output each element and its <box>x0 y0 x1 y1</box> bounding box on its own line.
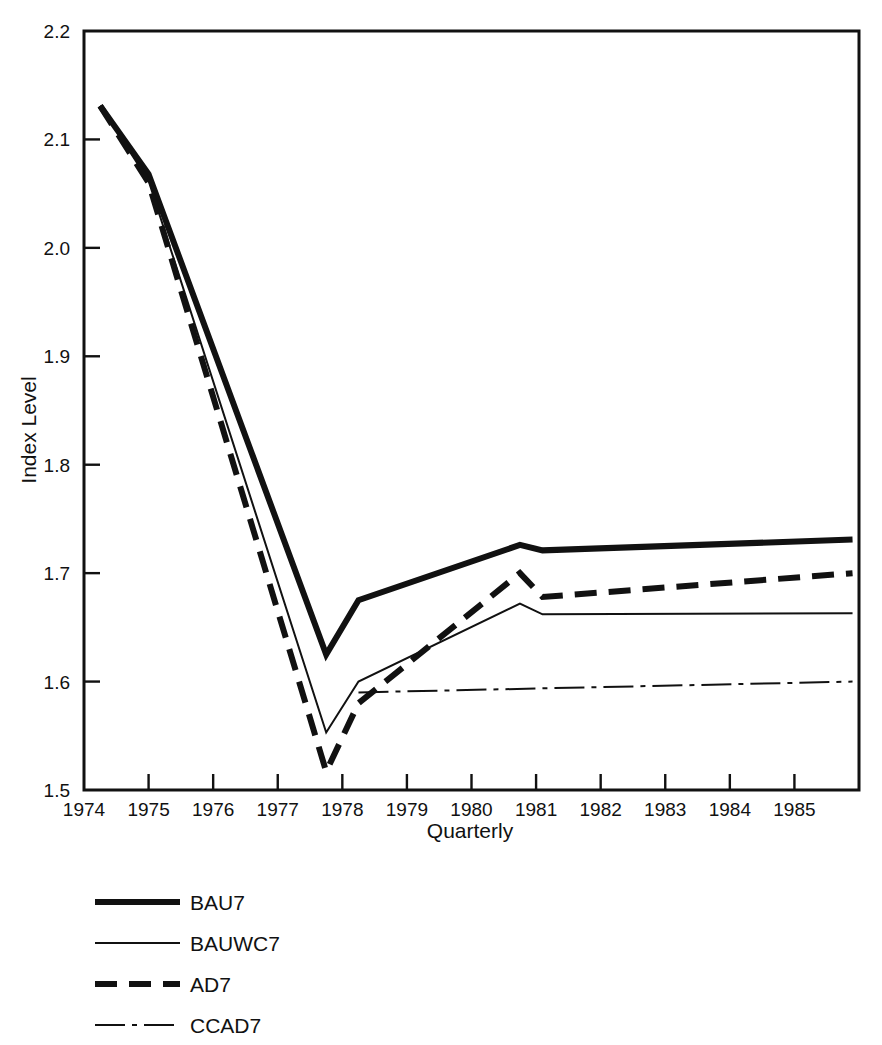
chart-legend: BAU7BAUWC7AD7CCAD7 <box>95 891 280 1037</box>
chart-canvas: 1.51.61.71.81.92.02.12.2 197419751976197… <box>0 0 882 1045</box>
y-tick-label: 2.1 <box>44 129 70 150</box>
x-tick-label: 1979 <box>386 799 428 820</box>
x-axis-ticks <box>149 774 795 790</box>
x-tick-label: 1985 <box>773 799 815 820</box>
legend-label-ad7: AD7 <box>190 973 231 996</box>
x-axis-tick-labels: 1974197519761977197819791980198119821983… <box>63 799 816 820</box>
legend-label-bau7: BAU7 <box>190 891 245 914</box>
y-axis-tick-labels: 1.51.61.71.81.92.02.12.2 <box>44 21 70 801</box>
legend-label-ccad7: CCAD7 <box>190 1014 261 1037</box>
y-tick-label: 1.6 <box>44 672 70 693</box>
y-tick-label: 1.5 <box>44 780 70 801</box>
y-tick-label: 2.2 <box>44 21 70 42</box>
series-line-bauwc7 <box>100 106 852 733</box>
y-tick-label: 2.0 <box>44 238 70 259</box>
x-tick-label: 1976 <box>192 799 234 820</box>
x-tick-label: 1982 <box>580 799 622 820</box>
x-tick-label: 1978 <box>321 799 363 820</box>
y-axis-title: Index Level <box>17 376 40 483</box>
chart-figure: 1.51.61.71.81.92.02.12.2 197419751976197… <box>0 0 882 1045</box>
x-tick-label: 1981 <box>515 799 557 820</box>
y-tick-label: 1.8 <box>44 455 70 476</box>
series-line-ad7 <box>100 106 852 772</box>
plot-frame <box>84 31 859 790</box>
legend-label-bauwc7: BAUWC7 <box>190 932 280 955</box>
y-tick-label: 1.7 <box>44 563 70 584</box>
x-tick-label: 1977 <box>257 799 299 820</box>
y-tick-label: 1.9 <box>44 346 70 367</box>
x-tick-label: 1974 <box>63 799 106 820</box>
x-tick-label: 1983 <box>644 799 686 820</box>
x-axis-title: Quarterly <box>427 819 514 842</box>
x-tick-label: 1980 <box>450 799 492 820</box>
series-line-ccad7 <box>358 682 852 693</box>
y-axis-ticks <box>84 139 100 681</box>
series-lines <box>100 106 852 772</box>
x-tick-label: 1975 <box>127 799 169 820</box>
x-tick-label: 1984 <box>709 799 752 820</box>
